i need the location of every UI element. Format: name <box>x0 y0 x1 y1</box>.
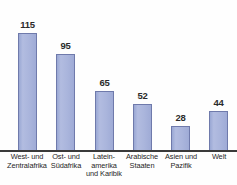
bar-value-label: 115 <box>10 20 45 30</box>
bar-value-label: 44 <box>201 98 236 108</box>
bar[interactable] <box>171 126 190 151</box>
category-label: West- und Zentralafrika <box>5 153 49 170</box>
category-label-line: Welt <box>197 153 237 162</box>
bar-group: 65 <box>95 0 114 151</box>
bar-value-label: 95 <box>48 41 83 51</box>
bar[interactable] <box>209 111 228 151</box>
bar-group: 115 <box>18 0 37 151</box>
bar-value-label: 52 <box>125 91 160 101</box>
category-label: Arabische Staaten <box>120 153 164 170</box>
bar-value-label: 65 <box>87 78 122 88</box>
category-label-line: Pazifik <box>159 162 203 171</box>
category-label-line: Staaten <box>120 162 164 171</box>
bar-group: 44 <box>209 0 228 151</box>
category-label: Welt <box>197 153 237 162</box>
bar-group: 28 <box>171 0 190 151</box>
category-label-line: Zentralafrika <box>5 162 49 171</box>
bar-group: 52 <box>133 0 152 151</box>
x-axis-category-labels: West- und Zentralafrika Ost- und Südafri… <box>0 153 237 185</box>
bar[interactable] <box>56 54 75 151</box>
bar[interactable] <box>133 104 152 151</box>
bar-value-label: 28 <box>163 113 198 123</box>
category-label-line: und Karibik <box>82 170 126 179</box>
plot-area: 115 95 65 52 28 44 <box>0 0 237 151</box>
bar-chart: 115 95 65 52 28 44 <box>0 0 237 185</box>
bar-group: 95 <box>56 0 75 151</box>
bar[interactable] <box>95 91 114 151</box>
bar[interactable] <box>18 33 37 151</box>
